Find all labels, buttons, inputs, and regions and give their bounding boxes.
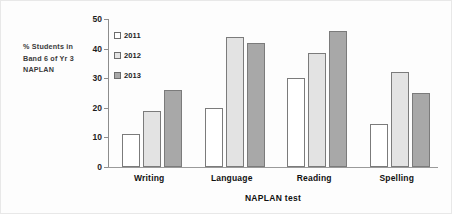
bar-series-container (109, 19, 438, 167)
y-axis-caption-line-1: % Students in (23, 41, 101, 53)
bar-group-language (192, 19, 275, 167)
y-axis-tick-mark (104, 167, 108, 168)
bar-writing-2012[interactable] (143, 111, 161, 167)
x-axis-title: NAPLAN test (108, 193, 438, 203)
bar-reading-2013[interactable] (329, 31, 347, 167)
plot-area: 01020304050 201120122013 (108, 19, 438, 167)
x-axis-label-language: Language (191, 173, 274, 183)
y-axis-tick-label: 50 (93, 14, 102, 24)
y-axis-tick-label: 20 (93, 103, 102, 113)
y-axis-caption: % Students in Band 6 of Yr 3 NAPLAN (23, 41, 101, 76)
y-axis-caption-line-3: NAPLAN (23, 64, 101, 76)
y-axis-tick-label: 0 (97, 162, 102, 172)
y-axis-tick-mark (104, 137, 108, 138)
bar-language-2013[interactable] (247, 43, 265, 167)
bar-group-writing (109, 19, 192, 167)
bar-group-reading (274, 19, 357, 167)
bar-group-spelling (357, 19, 440, 167)
bar-reading-2012[interactable] (308, 53, 326, 167)
bar-language-2012[interactable] (226, 37, 244, 167)
y-axis-tick-mark (104, 108, 108, 109)
y-axis-tick-label: 40 (93, 44, 102, 54)
bar-reading-2011[interactable] (287, 78, 305, 167)
y-axis-tick-label: 30 (93, 73, 102, 83)
bar-writing-2011[interactable] (122, 134, 140, 167)
x-axis-line (108, 167, 438, 168)
x-axis-label-writing: Writing (108, 173, 191, 183)
y-axis-tick-label: 10 (93, 132, 102, 142)
chart-figure: % Students in Band 6 of Yr 3 NAPLAN 0102… (0, 0, 452, 214)
x-axis-label-reading: Reading (273, 173, 356, 183)
y-axis-tick-mark (104, 78, 108, 79)
bar-spelling-2013[interactable] (412, 93, 430, 167)
bar-spelling-2011[interactable] (370, 124, 388, 167)
y-axis-caption-line-2: Band 6 of Yr 3 (23, 53, 101, 65)
bar-spelling-2012[interactable] (391, 72, 409, 167)
x-axis-category-labels: WritingLanguageReadingSpelling (108, 173, 438, 187)
bar-language-2011[interactable] (205, 108, 223, 167)
x-axis-label-spelling: Spelling (356, 173, 439, 183)
y-axis-tick-mark (104, 49, 108, 50)
bar-writing-2013[interactable] (164, 90, 182, 167)
y-axis-tick-mark (104, 19, 108, 20)
